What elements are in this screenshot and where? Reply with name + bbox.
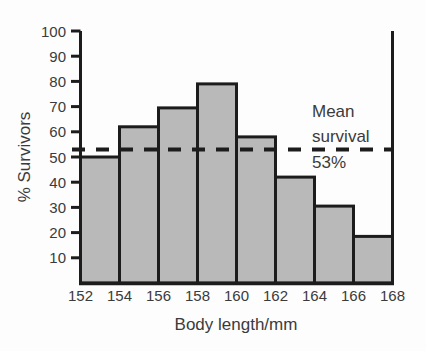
bar-162-164 xyxy=(276,177,315,283)
chart-figure: 100 90 80 70 60 50 40 30 20 10 152 154 1… xyxy=(0,0,426,351)
y-tick-label-10: 10 xyxy=(49,249,66,266)
y-tick-label-100: 100 xyxy=(41,23,66,40)
y-tick-label-50: 50 xyxy=(49,149,66,166)
y-tick-labels: 100 90 80 70 60 50 40 30 20 10 xyxy=(41,23,66,267)
y-tick-label-30: 30 xyxy=(49,199,66,216)
bar-156-158 xyxy=(159,108,198,283)
y-tick-label-80: 80 xyxy=(49,73,66,90)
x-tick-label-152: 152 xyxy=(68,287,93,304)
x-tick-labels: 152 154 156 158 160 162 164 166 168 xyxy=(68,287,405,304)
mean-survival-annotation: Mean survival 53% xyxy=(312,102,370,172)
y-tick-label-40: 40 xyxy=(49,174,66,191)
x-tick-label-168: 168 xyxy=(380,287,405,304)
x-tick-label-166: 166 xyxy=(341,287,366,304)
bar-166-168 xyxy=(354,236,393,283)
survivorship-histogram: 100 90 80 70 60 50 40 30 20 10 152 154 1… xyxy=(0,0,426,351)
x-tick-label-162: 162 xyxy=(263,287,288,304)
y-tick-label-70: 70 xyxy=(49,98,66,115)
bar-164-166 xyxy=(315,206,354,283)
y-tick-label-90: 90 xyxy=(49,48,66,65)
bar-152-154 xyxy=(81,157,120,283)
y-tick-label-20: 20 xyxy=(49,224,66,241)
mean-survival-label-line1: Mean xyxy=(312,102,355,121)
mean-survival-label-line3: 53% xyxy=(312,153,346,172)
mean-survival-label-line2: survival xyxy=(312,127,370,146)
x-tick-label-154: 154 xyxy=(107,287,132,304)
bar-160-162 xyxy=(237,137,276,283)
x-tick-label-164: 164 xyxy=(302,287,327,304)
x-tick-label-158: 158 xyxy=(185,287,210,304)
x-tick-label-160: 160 xyxy=(224,287,249,304)
y-tick-label-60: 60 xyxy=(49,123,66,140)
y-axis-title: % Survivors xyxy=(15,112,34,203)
bar-158-160 xyxy=(198,84,237,283)
x-axis-title: Body length/mm xyxy=(175,315,298,334)
x-tick-label-156: 156 xyxy=(146,287,171,304)
